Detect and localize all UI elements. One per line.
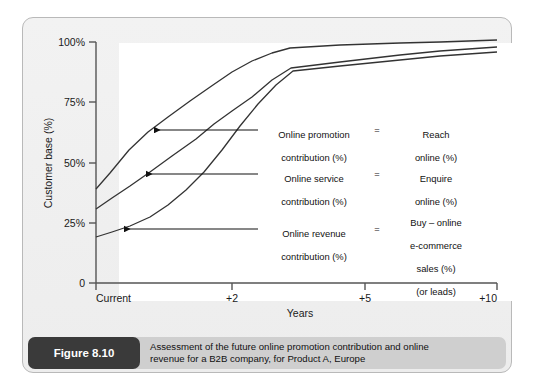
annotation-value-line-3: sales (%) (390, 263, 482, 274)
annotation-value-line-1: Enquire (390, 173, 482, 184)
annotation-line-2: contribution (%) (262, 196, 366, 207)
annotation-equals-1: = (370, 124, 384, 135)
annotation-equals-2: = (370, 168, 384, 179)
y-axis-title: Customer base (%) (42, 118, 54, 208)
figure-caption-text: Assessment of the future online promotio… (150, 341, 500, 365)
y-tick-label-25: 25% (64, 217, 85, 229)
y-tick-label-50: 50% (64, 157, 85, 169)
annotation-value-line-2: e-commerce (390, 240, 482, 251)
x-tick-label-current: Current (96, 292, 131, 304)
annotation-label-online-service: Online service contribution (%) (262, 162, 366, 219)
annotation-value-line-1: Reach (390, 129, 482, 140)
y-tick-label-75: 75% (64, 96, 85, 108)
figure-caption-line-2: revenue for a B2B company, for Product A… (150, 353, 500, 365)
annotation-value-line-1: Buy – online (390, 217, 482, 228)
annotation-value-buy-online: Buy – online e-commerce sales (%) (or le… (390, 206, 482, 309)
figure-caption-line-1: Assessment of the future online promotio… (150, 341, 500, 353)
annotation-line-1: Online promotion (262, 129, 366, 140)
annotation-line-2: contribution (%) (262, 251, 366, 262)
figure-container: 100% 75% 50% 25% 0 Current +2 +5 +10 Yea… (0, 0, 533, 390)
annotation-line-1: Online revenue (262, 228, 366, 239)
annotation-label-online-revenue: Online revenue contribution (%) (262, 217, 366, 274)
annotation-value-line-4: (or leads) (390, 286, 482, 297)
x-tick-label-plus2: +2 (226, 292, 238, 304)
x-axis-title: Years (287, 307, 313, 319)
x-tick-label-plus5: +5 (359, 292, 371, 304)
figure-number-badge: Figure 8.10 (28, 337, 140, 369)
y-tick-label-100: 100% (58, 36, 85, 48)
annotation-equals-3: = (370, 223, 384, 234)
annotation-line-1: Online service (262, 173, 366, 184)
figure-caption-bar: Figure 8.10 Assessment of the future onl… (28, 337, 506, 369)
y-tick-label-0: 0 (79, 277, 85, 289)
